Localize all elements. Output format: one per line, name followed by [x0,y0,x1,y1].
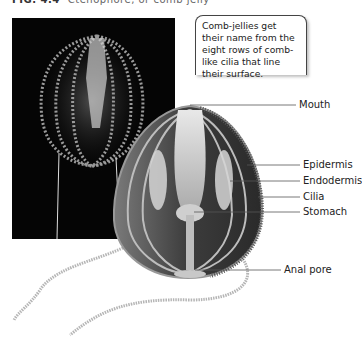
label-anal-pore: Anal pore [284,264,332,275]
label-mouth: Mouth [299,99,330,110]
label-epidermis: Epidermis [303,159,353,170]
label-stomach: Stomach [303,206,347,217]
label-cilia: Cilia [303,191,324,202]
anal-pore-shape [174,270,206,278]
label-endodermis: Endodermis [303,175,362,186]
aboral-canal [186,215,194,270]
pharynx [174,110,205,215]
